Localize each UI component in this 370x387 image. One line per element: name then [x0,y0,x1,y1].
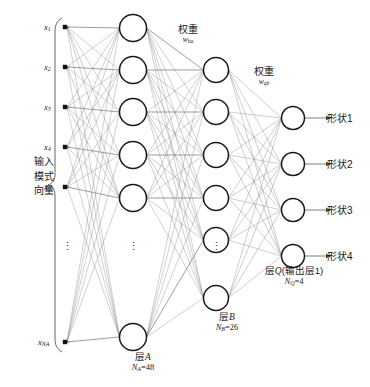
input-nodes [63,25,67,344]
weight-ba-sub: ba [188,38,194,44]
weight-qb-sub: qb [264,80,270,86]
edges-layer-b-to-layer-q [229,70,282,298]
weight-label-ba: 权重 wba [164,24,212,45]
layer-a-node-4 [120,142,147,169]
weight-qb-symbol: wqb [240,78,288,86]
layer-q-label: 层Q(输出层1) NQ=4 [249,266,339,287]
input-sub-x2: 2 [48,66,51,72]
output-arrows [305,116,331,259]
layer-a-node-2 [120,57,147,84]
layer-b-node-4 [204,186,229,211]
layer-b-count: NB=26 [192,323,262,333]
layer-b-ellipsis: ⋮ [211,240,222,253]
input-node-3 [63,105,67,109]
edges-layer-a-to-layer-b [147,28,204,337]
layer-a-ellipsis: ⋮ [128,240,139,253]
input-vector-line-1: 输入 [34,156,54,167]
layer-b-node-1 [204,58,229,83]
input-label-x5: x5 [44,183,51,193]
input-node-2 [63,65,67,69]
input-node-5 [63,185,67,189]
weight-qb-cjk: 权重 [240,66,288,77]
weight-ba-cjk: 权重 [164,24,212,35]
diagram-canvas: 输入 模式 向量 x1 x2 x3 x4 x5 xNA ⋮ ⋮ ⋮ 权重 wba… [0,0,370,387]
layer-a-label: 层A NA=48 [108,352,178,373]
output-label-2: 形状2 [327,159,353,170]
layer-b-node-6 [204,286,229,311]
layer-a-cjk: 层 [135,351,145,362]
layer-a-count-val: 48 [146,362,155,372]
input-ellipsis: ⋮ [62,240,73,253]
layer-q-letter: Q [275,266,282,276]
input-label-x3: x3 [44,103,51,113]
layer-b-node-3 [204,143,229,168]
weight-label-qb: 权重 wqb [240,66,288,87]
input-label-x1: x1 [44,23,51,33]
output-label-1: 形状1 [327,113,353,124]
layer-a-nodes [120,15,147,351]
edges-input-to-layer-a [65,27,120,342]
layer-a-count: NA=48 [108,363,178,373]
weight-ba-symbol: wba [164,36,212,44]
layer-a-node-6 [120,324,147,351]
input-sub-x3: 3 [48,106,51,112]
layer-q-node-3 [282,199,305,222]
layer-b-label: 层B NB=26 [192,312,262,333]
input-sub-x5: 5 [48,186,51,192]
output-label-3: 形状3 [327,205,353,216]
layer-b-nodes [204,58,229,311]
input-label-x2: x2 [44,63,51,73]
layer-q-node-2 [282,153,305,176]
input-sub-x4: 4 [48,146,51,152]
layer-q-count-val: 4 [299,276,303,286]
layer-q-suffix: (输出层1) [282,265,324,276]
layer-q-count: NQ=4 [249,277,339,287]
layer-b-count-val: 26 [230,322,239,332]
input-node-1 [63,25,67,29]
layer-a-node-3 [120,99,147,126]
input-label-xNA: xNA [38,338,49,348]
layer-q-node-1 [282,107,305,130]
layer-q-cjk: 层 [265,265,275,276]
layer-q-nodes [282,107,305,268]
input-label-x4: x4 [44,143,51,153]
layer-a-node-1 [120,15,147,42]
input-node-4 [63,145,67,149]
layer-b-letter: B [229,312,235,322]
layer-a-node-5 [120,185,147,212]
input-sub-x1: 1 [48,26,51,32]
layer-b-node-2 [204,100,229,125]
input-sub-xNA: NA [42,341,50,347]
input-vector-line-2: 模式 [34,171,54,182]
layer-a-letter: A [145,352,151,362]
output-label-4: 形状4 [327,251,353,262]
layer-b-cjk: 层 [219,311,229,322]
input-node-6 [63,340,67,344]
